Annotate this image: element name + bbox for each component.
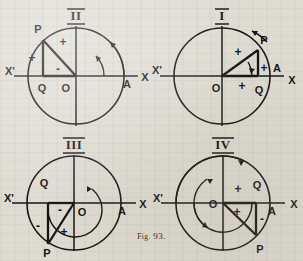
label-point-p: P [256,243,263,255]
label-initial-a: A [273,62,281,74]
label-axis-x-prime: X' [5,65,15,77]
angle-arc-arrowhead [87,186,92,192]
sign-vertical-leg: + [260,61,267,75]
quadrant-2-roman-numeral: II [70,8,81,23]
figure-caption-prefix: Fig. [137,232,150,241]
figure-caption-number: 93. [153,231,165,241]
diagram-quadrant-4: IV P Q O A X X' + + - [152,131,303,261]
diagram-quadrant-1: I P Q O A X X' + + + [152,0,303,131]
sign-vertical-leg: - [260,212,264,226]
sign-horizontal-leg: + [238,79,245,93]
label-point-p: P [260,34,267,46]
label-origin-o: O [61,82,70,94]
figure-caption: Fig. 93. [0,231,303,241]
label-axis-x-prime: X' [152,64,162,76]
angle-arc [48,189,102,237]
angle-arc-outer-arrowhead [238,160,244,166]
sign-hypotenuse: + [233,205,240,219]
sign-horizontal-leg: + [234,182,241,196]
label-foot-q: Q [253,179,262,191]
label-axis-x-prime: X' [153,192,163,204]
diagram-quadrant-2: II P Q O A X X' + + - [0,0,152,131]
diagram-quadrant-3: III Q P O A X X' - - + [0,131,152,261]
figure-93: II P Q O A X X' + + - I [0,0,303,261]
quadrant-4-roman-numeral: IV [215,137,231,152]
label-initial-a: A [118,205,126,217]
label-foot-q: Q [40,177,49,189]
label-origin-o: O [78,206,87,218]
label-initial-a: A [268,205,276,217]
label-origin-o: O [212,82,221,94]
quadrant-3-roman-numeral: III [66,137,83,152]
quadrant-1-roman-numeral: I [219,8,225,23]
label-axis-x: X [290,198,298,210]
angle-arc-inner-arrowhead [207,179,213,184]
sign-horizontal-leg: - [56,62,60,76]
label-axis-x-prime: X' [4,192,14,204]
label-axis-x: X [141,71,149,83]
label-origin-o: O [209,198,218,210]
label-initial-a: A [123,78,131,90]
label-foot-q: Q [255,84,264,96]
label-foot-q: Q [38,82,47,94]
sign-hypotenuse: + [234,45,241,59]
label-point-p: P [34,23,41,35]
label-axis-x: X [139,198,147,210]
sign-vertical-leg: + [28,51,35,65]
sign-hypotenuse: + [59,35,66,49]
sign-horizontal-leg: - [58,203,62,217]
label-point-p: P [43,247,50,259]
label-axis-x: X [288,74,296,86]
